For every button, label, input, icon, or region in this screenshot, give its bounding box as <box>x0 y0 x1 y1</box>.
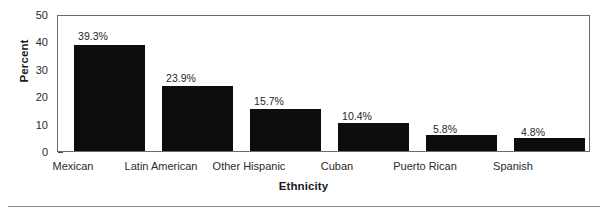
bar-mexican <box>74 45 145 151</box>
bar-value-spanish: 4.8% <box>483 127 583 138</box>
x-tick-label-puerto-rican: Puerto Rican <box>375 160 475 172</box>
bar-chart-figure: Percent 50 40 30 20 10 0 39.3% 23.9% 15.… <box>0 0 607 216</box>
y-tick-label-20: 20 <box>22 92 48 103</box>
bar-value-puerto-rican: 5.8% <box>395 124 495 135</box>
bottom-divider <box>8 206 600 207</box>
bar-value-latin-american: 23.9% <box>131 73 231 84</box>
y-tick-label-0: 0 <box>22 147 48 158</box>
bar-spanish <box>514 138 585 151</box>
bar-value-other-hispanic: 15.7% <box>219 96 319 107</box>
x-tick-label-mexican: Mexican <box>23 160 123 172</box>
x-tick-label-cuban: Cuban <box>287 160 387 172</box>
x-axis-title: Ethnicity <box>0 180 607 192</box>
y-tick-label-30: 30 <box>22 65 48 76</box>
y-tick-label-50: 50 <box>22 10 48 21</box>
y-tick-label-10: 10 <box>22 120 48 131</box>
bar-value-mexican: 39.3% <box>43 31 143 42</box>
bar-value-cuban: 10.4% <box>307 111 407 122</box>
x-tick-label-spanish: Spanish <box>463 160 563 172</box>
x-tick-label-other-hispanic: Other Hispanic <box>199 160 299 172</box>
y-tick-mark-0 <box>58 152 63 153</box>
x-tick-label-latin-american: Latin American <box>111 160 211 172</box>
